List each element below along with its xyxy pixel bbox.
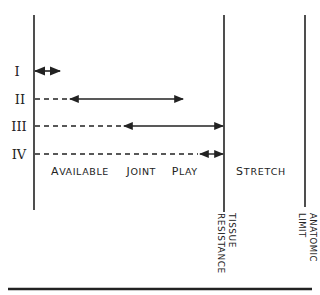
grade-label-1: I: [14, 64, 19, 79]
resistance-label: RESISTANCE: [216, 213, 226, 274]
joint-mobilization-grades-diagram: I II III IV AVAILABLE JOINT PLAY STRETCH…: [0, 0, 320, 295]
grade-label-3: III: [11, 119, 26, 134]
tissue-label: TISSUE: [227, 212, 237, 248]
stretch-label: STRETCH: [236, 165, 286, 178]
grade-label-2: II: [15, 92, 25, 107]
available-joint-play-label: AVAILABLE JOINT PLAY: [51, 165, 198, 178]
anatomic-label: ANATOMIC: [308, 213, 318, 262]
grade-label-4: IV: [12, 147, 27, 162]
limit-label: LIMIT: [297, 213, 307, 238]
